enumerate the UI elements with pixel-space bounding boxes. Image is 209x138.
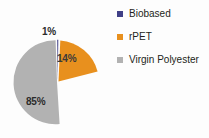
pie-plot-area: 1% 14% 85% — [0, 0, 118, 138]
legend-item-biobased[interactable]: Biobased — [117, 8, 209, 20]
legend-label-rpet: rPET — [129, 32, 152, 42]
legend-item-virgin-polyester[interactable]: Virgin Polyester — [117, 54, 209, 66]
chart-legend: Biobased rPET Virgin Polyester — [117, 8, 209, 66]
legend-label-virgin-polyester: Virgin Polyester — [129, 55, 199, 65]
pie-chart: 1% 14% 85% Biobased rPET Virgin Polyeste… — [0, 0, 209, 138]
pie-label-biobased: 1% — [42, 27, 56, 37]
legend-item-rpet[interactable]: rPET — [117, 31, 209, 43]
legend-swatch-rpet — [117, 34, 123, 40]
legend-label-biobased: Biobased — [129, 9, 171, 19]
legend-swatch-biobased — [117, 11, 123, 17]
legend-swatch-virgin-polyester — [117, 57, 123, 63]
pie-label-rpet: 14% — [57, 54, 76, 64]
pie-label-virgin-polyester: 85% — [26, 97, 45, 107]
pie-slice-virgin-polyester[interactable] — [14, 40, 60, 124]
pie-svg — [0, 0, 118, 138]
